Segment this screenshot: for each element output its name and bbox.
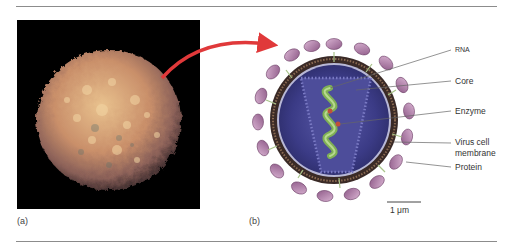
bottom-rule (16, 241, 497, 242)
enzyme-dot (336, 122, 341, 127)
label-membrane-line1: Virus cell (455, 137, 489, 147)
label-enzyme: Enzyme (455, 106, 486, 116)
enzyme-dot (328, 109, 333, 114)
label-membrane-line2: membrane (455, 148, 496, 158)
virus-diagram (0, 0, 521, 249)
connector-arrow (162, 42, 268, 78)
label-protein: Protein (455, 162, 482, 172)
label-rna: RNA (455, 45, 470, 55)
label-core: Core (455, 76, 473, 86)
scale-bar-label: 1 μm (390, 205, 409, 215)
